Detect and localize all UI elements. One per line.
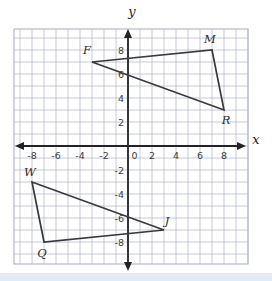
x-tick-label: -8 [27, 150, 36, 161]
x-tick-label: -2 [99, 150, 108, 161]
x-tick-label: -6 [51, 150, 60, 161]
x-tick-label: 8 [221, 150, 227, 161]
vertex-label-Q: Q [37, 246, 47, 260]
bottom-strip-bar [0, 273, 272, 281]
y-tick-label: -2 [115, 165, 124, 176]
y-axis-down-arrow-icon [124, 262, 132, 271]
x-tick-label: -4 [75, 150, 84, 161]
x-axis-label: x [252, 132, 260, 147]
x-tick-label: 6 [197, 150, 203, 161]
vertex-label-F: F [82, 43, 92, 57]
y-tick-label: 4 [118, 93, 124, 104]
y-tick-label: -8 [115, 237, 124, 248]
y-tick-label: 8 [118, 45, 124, 56]
x-tick-label: 2 [149, 150, 155, 161]
graph-figure: -8-6-4-2024688642-2-4-6-8 FMRWQJ y x [0, 0, 272, 281]
y-tick-label: -4 [115, 189, 124, 200]
y-axis-label: y [127, 4, 136, 19]
bottom-strip [0, 273, 272, 281]
vertex-label-M: M [203, 32, 217, 46]
coordinate-plane: -8-6-4-2024688642-2-4-6-8 FMRWQJ y x [0, 0, 272, 281]
x-tick-label: 0 [131, 150, 137, 161]
x-tick-label: 4 [173, 150, 179, 161]
vertex-label-W: W [24, 165, 37, 179]
y-tick-label: 2 [118, 117, 124, 128]
vertex-label-R: R [221, 113, 231, 127]
